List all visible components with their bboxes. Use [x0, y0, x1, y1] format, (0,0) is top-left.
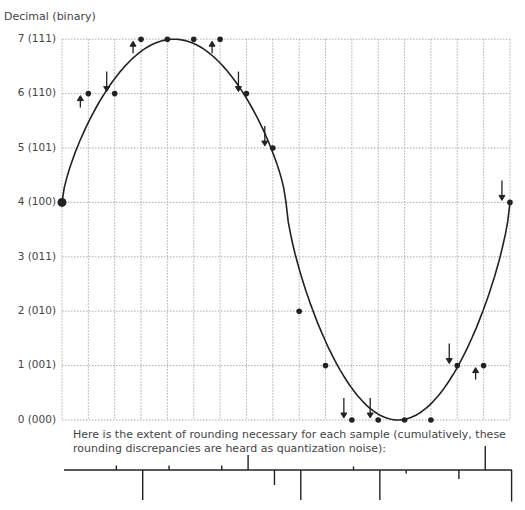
- grid: [62, 39, 510, 420]
- caption: Here is the extent of rounding necessary…: [73, 428, 513, 456]
- sample-dots: [58, 36, 513, 422]
- rounding-arrows: [77, 41, 505, 418]
- sine-curve: [62, 39, 510, 420]
